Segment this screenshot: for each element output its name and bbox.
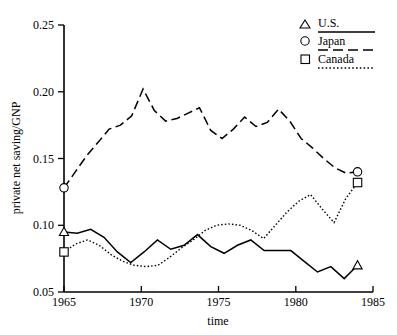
x-axis-title: time: [207, 314, 228, 328]
circle-icon: [60, 184, 68, 192]
chart-figure: 0.25 0.20 0.15 0.10 0.05 1965 1970 1975 …: [0, 0, 397, 335]
line-chart-canvas: 0.25 0.20 0.15 0.10 0.05 1965 1970 1975 …: [0, 0, 397, 335]
y-tick-label: 0.25: [33, 18, 54, 32]
legend-label-canada: Canada: [318, 52, 355, 66]
square-icon: [60, 248, 68, 256]
y-axis-title: private net saving/GNP: [9, 101, 23, 214]
y-tick-label: 0.05: [33, 285, 54, 299]
y-tick-label: 0.15: [33, 152, 54, 166]
x-tick-label: 1985: [361, 295, 385, 309]
y-tick-label: 0.20: [33, 85, 54, 99]
legend-label-us: U.S.: [318, 16, 339, 30]
y-tick-label: 0.10: [33, 218, 54, 232]
legend-label-japan: Japan: [318, 34, 345, 48]
x-tick-label: 1965: [52, 295, 76, 309]
square-icon: [301, 55, 310, 64]
square-icon: [353, 178, 361, 186]
x-tick-label: 1975: [207, 295, 231, 309]
circle-icon: [353, 168, 361, 176]
x-tick-label: 1980: [284, 295, 308, 309]
circle-icon: [301, 37, 309, 45]
x-tick-label: 1970: [129, 295, 153, 309]
